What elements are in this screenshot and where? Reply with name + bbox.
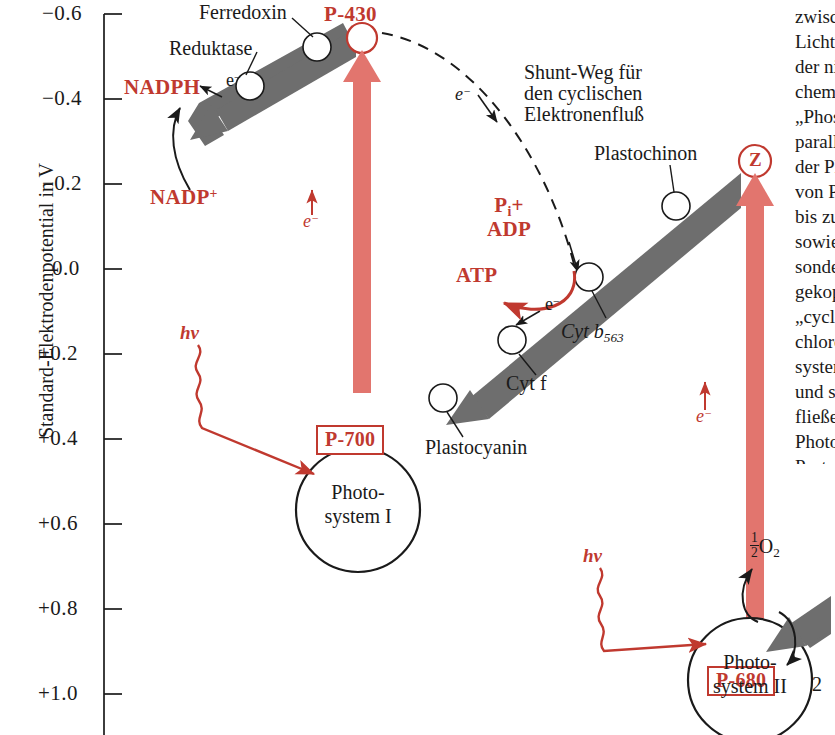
side-text-line: sondere Bedeutung — [795, 254, 835, 279]
photosystem-1-line-2: system I — [298, 505, 418, 529]
side-text-line: bis zum Photosystem I — [795, 204, 835, 229]
cyclic-shunt-electron-arrow — [478, 95, 497, 122]
side-text-line: von Photosystem II — [795, 179, 835, 204]
hv-arrow-psii — [598, 568, 706, 651]
carrier-circle-cyt-f — [498, 326, 526, 354]
label-hv-psii: hν — [583, 546, 602, 566]
label-hv-psi: hν — [180, 323, 199, 343]
side-text-line: Photosystem II — [795, 429, 835, 454]
leader-plastochinon — [670, 165, 674, 192]
side-text-line: chemiosmotische — [795, 79, 835, 104]
label-pi: Pi+ — [487, 195, 531, 219]
side-text-line: Protonengradient — [795, 454, 835, 464]
hv-arrow-psi — [196, 345, 314, 474]
leader-ferredoxin — [292, 18, 313, 37]
carrier-circle-plastocyanin — [429, 384, 457, 412]
label-adp: ADP — [487, 219, 531, 241]
side-text-line: sowie der damit ge- — [795, 229, 835, 254]
shunt-line-3: Elektronenfluß — [524, 104, 644, 125]
label-nadp-plus: NADP+ — [150, 186, 218, 208]
label-ferredoxin: Ferredoxin — [199, 2, 287, 23]
side-text-line: Lichtreaktionen liegt — [795, 29, 835, 54]
psii-excitation-arrow — [736, 173, 774, 629]
side-text-line: gekoppelte ATP- — [795, 279, 835, 304]
one-half-fraction: 12 — [750, 531, 759, 559]
label-p430: P-430 — [324, 3, 377, 25]
label-pi-adp: Pi+ ADP — [487, 195, 531, 241]
axis-tick-4: +0.2 — [38, 342, 78, 364]
electron-label-psi-excitation: e− — [303, 212, 319, 231]
electron-label-shunt: e− — [455, 85, 471, 104]
potential-axis — [104, 14, 122, 735]
side-text-line: fließenden Elektronen- — [795, 404, 835, 429]
axis-tick-2: −0.2 — [42, 172, 82, 194]
photosystem-2-line-1: Photo- — [690, 651, 810, 675]
shunt-line-1: Shunt-Weg für — [524, 62, 644, 83]
side-text-line: chlorophyll des — [795, 329, 835, 354]
cyclic-shunt-entry-arrow — [569, 242, 578, 272]
photosystem-2-caption: Photo- system II — [690, 651, 810, 698]
side-text-line: zwischen den beiden — [795, 4, 835, 29]
axis-title: Standard-Elektrodenpotential in V — [36, 151, 57, 451]
label-atp: ATP — [456, 264, 497, 286]
carrier-circle-plastochinon — [662, 192, 690, 220]
node-p430 — [347, 23, 377, 53]
label-plastochinon: Plastochinon — [594, 143, 697, 164]
axis-tick-6: +0.6 — [38, 512, 78, 534]
photosystem-1-line-1: Photo- — [298, 481, 418, 505]
carrier-circle-ferredoxin — [303, 33, 331, 61]
label-z: Z — [749, 150, 762, 170]
reaction-centre-p700[interactable]: P-700 — [316, 425, 384, 455]
electron-pointer-psi — [200, 86, 222, 97]
electron-label-psi: e− — [226, 71, 241, 90]
nadp-to-nadph-arrow — [173, 108, 190, 190]
side-text-line: system I zurück- — [795, 354, 835, 379]
adp-to-atp-arrow — [504, 271, 575, 309]
shunt-caption: Shunt-Weg für den cyclischen Elektronenf… — [524, 62, 644, 125]
label-nadph: NADPH — [124, 76, 200, 98]
label-two: 2 — [812, 674, 822, 695]
axis-tick-3: 0.0 — [52, 257, 80, 279]
side-text-line: der Plastochinon- — [795, 154, 835, 179]
photosystem-1-caption: Photo- system I — [298, 481, 418, 528]
electron-label-psii-chain: e− — [545, 295, 560, 314]
side-text-line: paralleler Elektronen- — [795, 129, 835, 154]
side-text-line: „cyclischen“ Elektro- — [795, 304, 835, 329]
photosystem-2-line-2: system II — [690, 675, 810, 699]
axis-tick-0: −0.6 — [42, 2, 82, 24]
psi-excitation-arrow — [343, 50, 381, 393]
axis-tick-5: +0.4 — [38, 427, 78, 449]
shunt-line-2: den cyclischen — [524, 83, 644, 104]
electron-label-psii-excitation: e− — [696, 407, 712, 426]
label-cyt-f: Cyt f — [506, 373, 547, 394]
side-text-line: der nichtcyclische — [795, 54, 835, 79]
axis-tick-8: +1.0 — [38, 682, 78, 704]
label-cyt-b563: Cyt b563 — [561, 321, 624, 345]
side-text-line: und so einen in sich — [795, 379, 835, 404]
electron-pointer-psii-chain — [516, 311, 540, 325]
label-plastocyanin: Plastocyanin — [425, 437, 527, 458]
axis-tick-1: −0.4 — [42, 87, 82, 109]
axis-tick-7: +0.8 — [38, 597, 78, 619]
carrier-circle-cyt-b563 — [575, 263, 603, 291]
side-text-line: „Phosphorylierung“ — [795, 104, 835, 129]
side-text-column: zwischen den beidenLichtreaktionen liegt… — [795, 4, 835, 464]
label-half-oxygen: 12O2 — [750, 531, 780, 560]
label-reduktase: Reduktase — [169, 38, 252, 59]
